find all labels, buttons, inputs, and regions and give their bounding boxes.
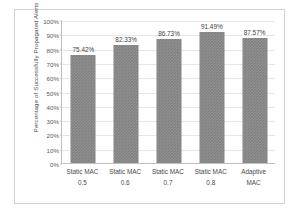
- y-axis-tick-label: 70%: [47, 60, 59, 67]
- x-axis-category-label: Static MAC0.8: [189, 167, 232, 188]
- bar-value-label: 91.49%: [201, 23, 223, 30]
- chart-frame: Percentage of Successfully Propagated Al…: [14, 9, 285, 204]
- x-axis-category-line: Static MAC: [189, 167, 232, 178]
- x-axis-category-line: 0.5: [61, 178, 104, 189]
- y-axis-tick-label: 60%: [47, 75, 59, 82]
- x-axis-category-line: MAC: [232, 178, 275, 189]
- bar-value-label: 75.42%: [73, 46, 95, 53]
- x-axis-category-line: Adaptive: [232, 167, 275, 178]
- y-axis-tick-label: 10%: [47, 146, 59, 153]
- bar-value-label: 82.33%: [115, 36, 137, 43]
- y-axis-tick-label: 40%: [47, 103, 59, 110]
- bar[interactable]: [199, 32, 224, 163]
- bar-slot: 91.49%: [190, 21, 233, 163]
- y-axis-tick-label: 100%: [43, 18, 59, 25]
- x-axis-category-label: AdaptiveMAC: [232, 167, 275, 188]
- y-axis-tick-label: 50%: [47, 89, 59, 96]
- x-axis-category-labels: Static MAC0.5Static MAC0.6Static MAC0.7S…: [61, 167, 275, 199]
- x-axis-category-line: Static MAC: [147, 167, 190, 178]
- bar-slot: 82.33%: [105, 21, 148, 163]
- x-axis-category-line: 0.6: [104, 178, 147, 189]
- x-axis-category-label: Static MAC0.6: [104, 167, 147, 188]
- y-axis-tick-label: 20%: [47, 132, 59, 139]
- x-axis-category-line: 0.8: [189, 178, 232, 189]
- x-axis-category-line: Static MAC: [104, 167, 147, 178]
- bar-slot: 75.42%: [62, 21, 105, 163]
- bar-slot: 87.57%: [233, 21, 276, 163]
- y-axis-tick-mark: [60, 164, 62, 165]
- x-axis-category-label: Static MAC0.5: [61, 167, 104, 188]
- bar[interactable]: [71, 55, 96, 163]
- y-axis-title: Percentage of Successfully Propagated Al…: [32, 0, 39, 148]
- y-axis-tick-label: 0%: [50, 161, 59, 168]
- bar[interactable]: [114, 45, 139, 163]
- x-axis-category-label: Static MAC0.7: [147, 167, 190, 188]
- x-axis-category-line: Static MAC: [61, 167, 104, 178]
- bar[interactable]: [242, 38, 267, 163]
- bar-value-label: 87.57%: [244, 29, 266, 36]
- y-axis-tick-label: 90%: [47, 32, 59, 39]
- y-axis-tick-label: 80%: [47, 46, 59, 53]
- bar-value-label: 86.73%: [158, 30, 180, 37]
- plot-area: 0%10%20%30%40%50%60%70%80%90%100%75.42%8…: [61, 21, 275, 164]
- bar[interactable]: [156, 39, 181, 163]
- y-axis-tick-label: 30%: [47, 118, 59, 125]
- x-axis-category-line: 0.7: [147, 178, 190, 189]
- bar-slot: 86.73%: [148, 21, 191, 163]
